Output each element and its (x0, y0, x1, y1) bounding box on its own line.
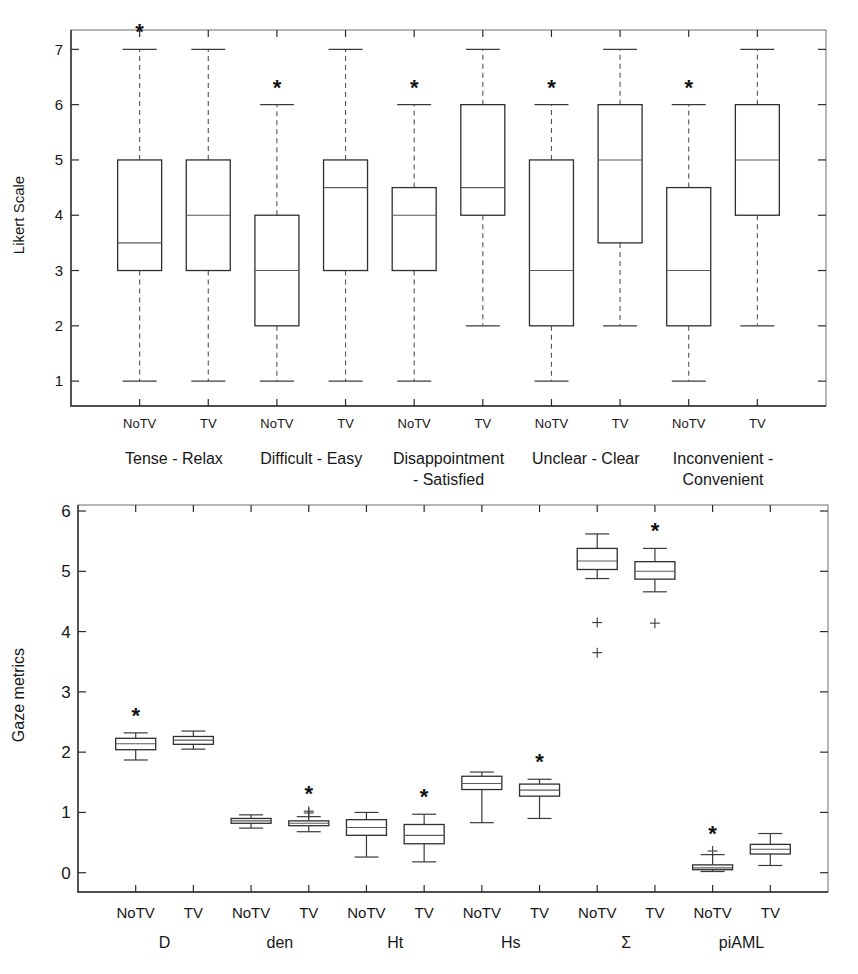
x-tick-label: NoTV (260, 416, 294, 431)
group-label: D (159, 934, 171, 951)
y-axis-label: Gaze metrics (10, 648, 27, 742)
group-label: piAML (719, 934, 764, 951)
y-tick-label: 5 (55, 151, 63, 168)
x-tick-label: NoTV (232, 904, 270, 921)
boxplot-box (461, 49, 505, 325)
y-tick-label: 7 (55, 41, 63, 58)
x-tick-label: NoTV (693, 904, 731, 921)
box-iqr (577, 548, 617, 569)
y-tick-label: 4 (55, 206, 63, 223)
boxplot-box: * (635, 518, 675, 628)
y-tick-label: 1 (55, 372, 63, 389)
significance-star: * (651, 518, 660, 543)
boxplot-box: * (404, 784, 444, 862)
boxplot-box (173, 731, 213, 749)
x-tick-label: TV (530, 904, 549, 921)
boxplot-box: * (520, 749, 560, 818)
box-iqr (461, 105, 505, 216)
likert-scale-boxplot: 1234567Likert Scale*****NoTVTVTense - Re… (0, 0, 858, 490)
y-tick-label: 6 (61, 502, 70, 521)
axis-spines (71, 30, 826, 406)
x-tick-label: NoTV (398, 416, 432, 431)
box-iqr (118, 160, 162, 271)
x-tick-label: NoTV (535, 416, 569, 431)
x-tick-label: NoTV (463, 904, 501, 921)
significance-star: * (273, 75, 282, 100)
boxplot-box: * (289, 781, 329, 831)
x-tick-label: TV (761, 904, 780, 921)
x-tick-label: TV (337, 416, 354, 431)
boxplot-box: * (255, 75, 299, 381)
x-tick-label: NoTV (578, 904, 616, 921)
x-tick-label: NoTV (123, 416, 157, 431)
box-iqr (462, 776, 502, 789)
y-tick-label: 3 (55, 262, 63, 279)
y-tick-label: 5 (61, 562, 70, 581)
group-label: Unclear - Clear (532, 450, 640, 467)
boxplot-box: * (118, 19, 162, 381)
x-tick-label: TV (200, 416, 217, 431)
y-tick-label: 1 (61, 803, 70, 822)
y-tick-label: 2 (61, 743, 70, 762)
x-axis: NoTVTVDNoTVTVdenNoTVTVHtNoTVTVHsNoTVTVΣN… (117, 505, 780, 951)
significance-star: * (535, 749, 544, 774)
significance-star: * (547, 75, 556, 100)
x-tick-label: TV (749, 416, 766, 431)
boxplot-box (750, 834, 790, 866)
boxplot-box (231, 815, 271, 828)
boxplot-box (462, 772, 502, 823)
box-iqr (529, 160, 573, 326)
significance-star: * (420, 784, 429, 809)
boxplot-box: * (693, 821, 733, 871)
gaze-metrics-boxplot: 0123456Gaze metrics******NoTVTVDNoTVTVde… (0, 490, 858, 974)
group-label: Convenient (683, 471, 765, 488)
y-tick-label: 0 (61, 864, 70, 883)
group-label: - Satisfied (413, 471, 484, 488)
group-label: Σ (621, 934, 631, 951)
box-iqr (392, 188, 436, 271)
significance-star: * (708, 821, 717, 846)
boxplot-box (324, 49, 368, 381)
x-tick-label: NoTV (347, 904, 385, 921)
y-tick-label: 6 (55, 96, 63, 113)
boxplot-box: * (116, 703, 156, 760)
y-tick-label: 2 (55, 317, 63, 334)
y-tick-label: 4 (61, 623, 70, 642)
y-axis-label: Likert Scale (10, 176, 27, 254)
group-label: Hs (501, 934, 521, 951)
x-tick-label: TV (612, 416, 629, 431)
x-tick-label: NoTV (672, 416, 706, 431)
x-tick-label: NoTV (117, 904, 155, 921)
boxplot-box (186, 49, 230, 381)
box-iqr (693, 865, 733, 870)
plot-frame (71, 30, 826, 406)
boxplot-box (577, 534, 617, 658)
significance-star: * (131, 703, 140, 728)
boxplot-box: * (392, 75, 436, 381)
x-tick-label: TV (645, 904, 664, 921)
group-label: Tense - Relax (125, 450, 223, 467)
box-iqr (404, 824, 444, 843)
boxplot-box (598, 49, 642, 325)
x-tick-label: TV (184, 904, 203, 921)
figure-container: 1234567Likert Scale*****NoTVTVTense - Re… (0, 0, 858, 974)
group-label: Difficult - Easy (260, 450, 362, 467)
box-iqr (667, 188, 711, 326)
boxplot-box: * (667, 75, 711, 381)
significance-star: * (304, 781, 313, 806)
boxplot-box: * (529, 75, 573, 381)
box-series: ***** (118, 19, 780, 381)
box-iqr (598, 105, 642, 243)
group-label: Disappointment (393, 450, 505, 467)
y-tick-label: 3 (61, 683, 70, 702)
box-iqr (324, 160, 368, 271)
significance-star: * (684, 75, 693, 100)
group-label: Ht (387, 934, 404, 951)
significance-star: * (410, 75, 419, 100)
box-iqr (635, 562, 675, 579)
group-label: Inconvenient - (673, 450, 774, 467)
x-tick-label: TV (475, 416, 492, 431)
boxplot-box (346, 812, 386, 857)
x-tick-label: TV (415, 904, 434, 921)
boxplot-box (735, 49, 779, 325)
